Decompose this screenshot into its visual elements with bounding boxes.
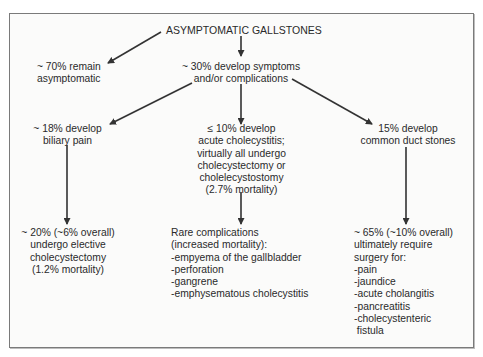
node-line: cholelecystostomy <box>190 172 293 184</box>
node-line: -cholecystenteric <box>354 313 453 325</box>
node-line: -perforation <box>171 264 308 276</box>
node-line: -pain <box>354 264 453 276</box>
node-line: ~ 20% (~6% overall) <box>18 227 118 239</box>
node-biliary-pain: ~ 18% develop biliary pain <box>30 123 105 148</box>
node-line: Rare complications <box>171 227 308 239</box>
node-common-duct-stones: 15% develop common duct stones <box>356 123 460 148</box>
node-line: ultimately require <box>354 239 453 251</box>
node-label: ASYMPTOMATIC GALLSTONES <box>166 24 320 36</box>
node-line: ≤ 10% develop <box>190 123 293 135</box>
node-require-surgery: ~ 65% (~10% overall) ultimately require … <box>354 227 453 338</box>
node-line: fistula <box>354 325 453 337</box>
node-line: cholecystectomy <box>18 252 118 264</box>
node-line: ~ 65% (~10% overall) <box>354 227 453 239</box>
node-line: ~ 30% develop symptoms <box>180 61 302 73</box>
node-remain-asymptomatic: ~ 70% remain asymptomatic <box>37 61 101 86</box>
node-asymptomatic-gallstones: ASYMPTOMATIC GALLSTONES <box>166 24 320 36</box>
node-line: asymptomatic <box>37 73 101 85</box>
node-elective-cholecystectomy: ~ 20% (~6% overall) undergo elective cho… <box>18 227 118 276</box>
node-line: (1.2% mortality) <box>18 264 118 276</box>
node-line: -jaundice <box>354 276 453 288</box>
node-line: cholecystectomy or <box>190 160 293 172</box>
node-line: -pancreatitis <box>354 301 453 313</box>
node-line: -emphysematous cholecystitis <box>171 288 308 300</box>
node-line: acute cholecystitis; <box>190 135 293 147</box>
node-line: (2.7% mortality) <box>190 184 293 196</box>
node-line: (increased mortality): <box>171 239 308 251</box>
node-line: ~ 18% develop <box>30 123 105 135</box>
node-line: biliary pain <box>30 135 105 147</box>
node-line: 15% develop <box>356 123 460 135</box>
node-line: surgery for: <box>354 252 453 264</box>
node-acute-cholecystitis: ≤ 10% develop acute cholecystitis; virtu… <box>190 123 293 197</box>
node-line: -acute cholangitis <box>354 288 453 300</box>
node-develop-symptoms: ~ 30% develop symptoms and/or complicati… <box>180 61 302 86</box>
node-line: undergo elective <box>18 239 118 251</box>
node-line: ~ 70% remain <box>37 61 101 73</box>
node-line: and/or complications <box>180 73 302 85</box>
arrow-symptoms-to-biliary <box>110 83 192 124</box>
node-rare-complications: Rare complications (increased mortality)… <box>171 227 308 301</box>
arrow-root-to-remain <box>108 32 161 63</box>
node-line: -gangrene <box>171 276 308 288</box>
node-line: -empyema of the gallbladder <box>171 252 308 264</box>
arrow-symptoms-to-duct <box>292 79 372 124</box>
node-line: virtually all undergo <box>190 148 293 160</box>
node-line: common duct stones <box>356 135 460 147</box>
